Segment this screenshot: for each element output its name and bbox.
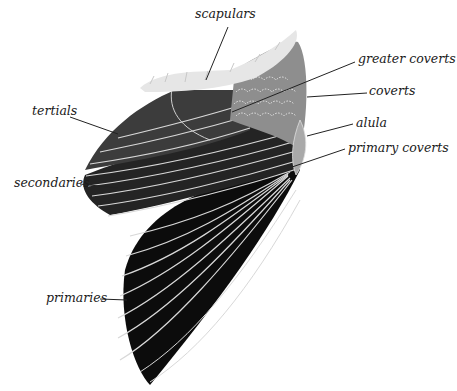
label-tertials: tertials xyxy=(32,105,77,118)
label-primary-coverts: primary coverts xyxy=(348,142,449,155)
label-alula: alula xyxy=(356,117,387,130)
label-primaries: primaries xyxy=(46,292,107,305)
label-secondaries: secondaries xyxy=(14,177,90,190)
label-greater-coverts: greater coverts xyxy=(358,53,456,66)
label-scapulars: scapulars xyxy=(195,8,256,21)
label-coverts: coverts xyxy=(369,85,415,98)
wing-diagram: scapulars greater coverts coverts alula … xyxy=(0,0,457,391)
